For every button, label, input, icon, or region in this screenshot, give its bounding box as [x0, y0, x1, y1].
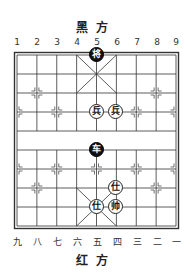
black-general-piece[interactable]: 将 [89, 47, 104, 62]
file-number: 九 [10, 235, 24, 248]
file-number: 三 [130, 235, 144, 248]
file-number: 八 [30, 235, 44, 248]
red-advisor-piece[interactable]: 仕 [89, 199, 104, 214]
file-number: 一 [169, 235, 183, 248]
file-number: 六 [70, 235, 84, 248]
red-side-label: 红方 [0, 251, 192, 268]
red-soldier-piece[interactable]: 兵 [89, 104, 104, 119]
file-number: 五 [90, 235, 104, 248]
file-number: 七 [50, 235, 64, 248]
bottom-file-numbers: 九 八 七 六 五 四 三 二 一 [0, 235, 192, 247]
file-number: 四 [110, 235, 124, 248]
black-chariot-piece[interactable]: 车 [89, 142, 104, 157]
file-number: 二 [150, 235, 164, 248]
